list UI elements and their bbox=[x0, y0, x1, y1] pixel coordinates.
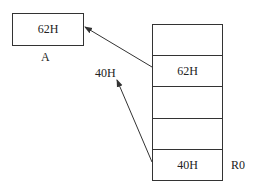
memory-cell: 62H bbox=[153, 56, 222, 87]
register-label: R0 bbox=[231, 158, 245, 172]
memory-stack: 62H 40H bbox=[152, 24, 223, 181]
memory-cell bbox=[153, 25, 222, 56]
memory-cell: 40H bbox=[153, 150, 222, 181]
memory-cell bbox=[153, 87, 222, 118]
arrow-to-a bbox=[85, 27, 152, 67]
variable-a-label: A bbox=[41, 50, 50, 64]
variable-a-value: 62H bbox=[38, 22, 59, 37]
memory-cell bbox=[153, 119, 222, 150]
variable-a-box: 62H bbox=[12, 13, 84, 46]
arrow-to-40h-label bbox=[117, 80, 152, 162]
pointer-label: 40H bbox=[95, 66, 116, 80]
